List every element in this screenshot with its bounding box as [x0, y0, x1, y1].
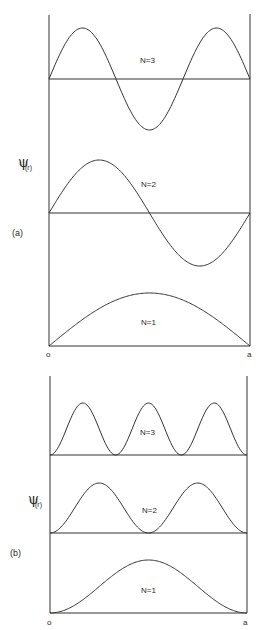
panel-b: N=3 N=2 N=1 ψ (r) (b) o a [10, 376, 248, 627]
psi-subscript-a: (r) [25, 164, 32, 172]
x-start-label-a: o [46, 350, 51, 359]
panel-tag-a: (a) [12, 228, 23, 238]
panel-tag-b: (b) [10, 548, 21, 558]
x-end-label-b: a [243, 618, 248, 627]
label-n1: N=1 [141, 318, 156, 327]
label-n1: N=1 [141, 586, 156, 595]
figure: N=3 N=2 N=1 ψ (r) (a) o a N=3 N=2 N=1 ψ … [0, 0, 259, 630]
x-start-label-b: o [47, 618, 52, 627]
panel-a: N=3 N=2 N=1 ψ (r) (a) o a [12, 14, 252, 359]
label-n2: N=2 [141, 180, 156, 189]
label-n3: N=3 [140, 56, 155, 65]
psi-subscript-b: (r) [35, 501, 42, 509]
label-n2: N=2 [142, 506, 157, 515]
label-n3: N=3 [140, 428, 155, 437]
x-end-label-a: a [247, 350, 252, 359]
